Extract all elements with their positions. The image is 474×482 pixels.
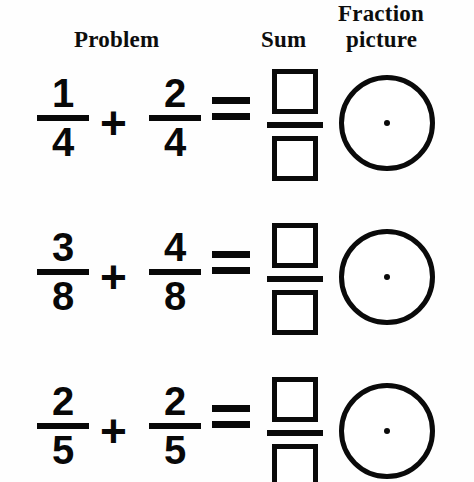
- equals-operator: [212, 405, 250, 428]
- column-header-fraction-picture-line1: Fraction: [338, 2, 424, 26]
- addend-a-denominator: 4: [34, 123, 92, 163]
- sum-fraction-bar: [267, 122, 323, 128]
- addend-b-numerator: 2: [146, 74, 204, 114]
- equals-operator: [212, 97, 250, 120]
- addend-b-numerator: 2: [146, 382, 204, 422]
- sum-denominator-answer-box[interactable]: [272, 290, 318, 335]
- sum-fraction-bar: [267, 430, 323, 436]
- plus-operator: +: [100, 254, 127, 300]
- sum-fraction-bar: [267, 276, 323, 282]
- sum-denominator-answer-box[interactable]: [272, 444, 318, 482]
- fraction-picture-circle[interactable]: [339, 229, 435, 325]
- addend-b-numerator: 4: [146, 228, 204, 268]
- circle-center-dot: [384, 274, 390, 280]
- problem-row: 1 4 + 2 4: [0, 62, 474, 207]
- circle-outline: [339, 75, 435, 171]
- addend-b-fraction: 2 4: [146, 74, 204, 163]
- problem-row: 2 5 + 2 5: [0, 370, 474, 482]
- addend-a-fraction: 1 4: [34, 74, 92, 163]
- column-header-problem: Problem: [74, 28, 159, 52]
- addend-a-fraction: 2 5: [34, 382, 92, 471]
- addend-b-denominator: 5: [146, 431, 204, 471]
- sum-denominator-answer-box[interactable]: [272, 136, 318, 181]
- sum-answer-fraction: [267, 223, 323, 335]
- addend-a-fraction: 3 8: [34, 228, 92, 317]
- addend-b-denominator: 4: [146, 123, 204, 163]
- fraction-picture-circle[interactable]: [339, 383, 435, 479]
- circle-center-dot: [384, 428, 390, 434]
- addend-a-denominator: 5: [34, 431, 92, 471]
- fraction-picture-circle[interactable]: [339, 75, 435, 171]
- equals-operator: [212, 251, 250, 274]
- sum-numerator-answer-box[interactable]: [272, 69, 318, 114]
- sum-numerator-answer-box[interactable]: [272, 377, 318, 422]
- addend-a-numerator: 2: [34, 382, 92, 422]
- sum-numerator-answer-box[interactable]: [272, 223, 318, 268]
- addend-b-fraction: 4 8: [146, 228, 204, 317]
- plus-operator: +: [100, 100, 127, 146]
- column-header-fraction-picture-line2: picture: [346, 28, 417, 52]
- addend-a-denominator: 8: [34, 277, 92, 317]
- plus-operator: +: [100, 408, 127, 454]
- circle-outline: [339, 229, 435, 325]
- sum-answer-fraction: [267, 69, 323, 181]
- addend-b-denominator: 8: [146, 277, 204, 317]
- addend-a-numerator: 1: [34, 74, 92, 114]
- circle-center-dot: [384, 120, 390, 126]
- addend-a-numerator: 3: [34, 228, 92, 268]
- worksheet-page: Problem Sum Fraction picture 1 4 + 2 4: [0, 0, 474, 482]
- addend-b-fraction: 2 5: [146, 382, 204, 471]
- circle-outline: [339, 383, 435, 479]
- sum-answer-fraction: [267, 377, 323, 482]
- problem-row: 3 8 + 4 8: [0, 216, 474, 361]
- column-header-sum: Sum: [261, 28, 306, 52]
